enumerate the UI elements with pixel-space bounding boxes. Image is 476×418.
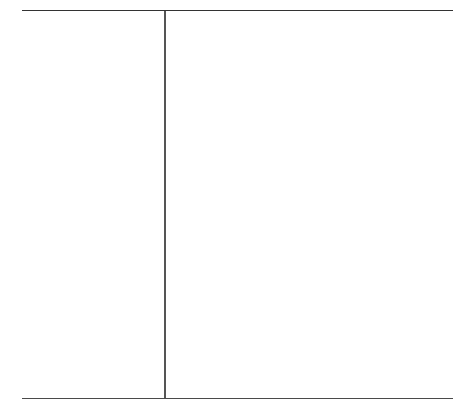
left-column-content [22,11,164,19]
table-right-column [166,11,453,398]
table-left-column [22,11,164,398]
right-column-content [166,11,453,19]
empty-table-frame [22,10,453,399]
